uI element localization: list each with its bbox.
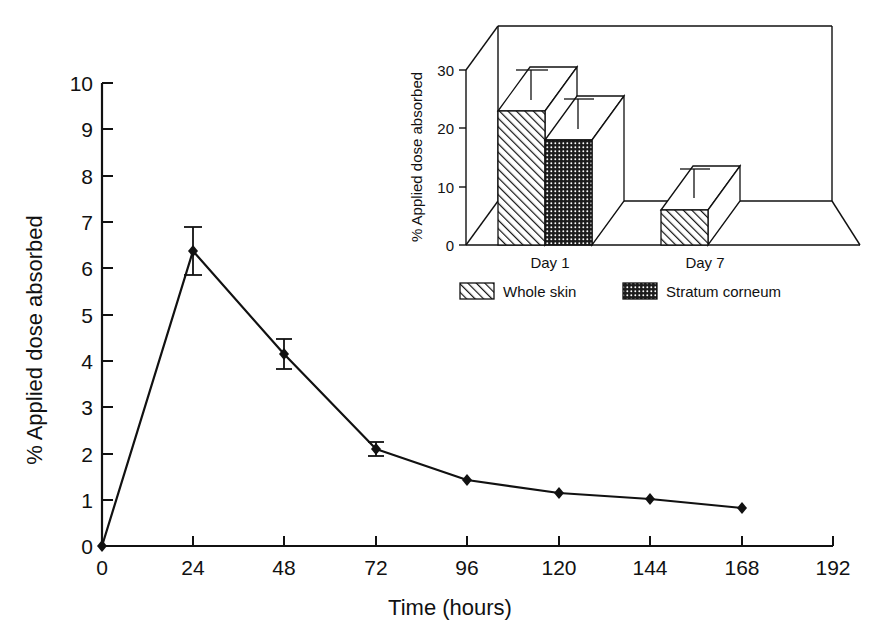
main-y-axis: 10 9 8 7 6 5 4 3 2 1 0 bbox=[70, 72, 113, 558]
inset-bar-chart: 30 20 10 0 bbox=[398, 2, 868, 312]
y-tick-label-6: 6 bbox=[81, 257, 93, 280]
y-tick-label-0: 0 bbox=[81, 535, 93, 558]
inset-legend: Whole skin Stratum corneum bbox=[460, 283, 781, 300]
inset-bar-day7-whole-skin bbox=[661, 166, 740, 245]
inset-y-tick-20: 20 bbox=[437, 120, 454, 137]
x-tick-label-96: 96 bbox=[455, 556, 478, 579]
inset-category-label-day-1: Day 1 bbox=[530, 254, 569, 271]
y-tick-label-10: 10 bbox=[70, 72, 93, 95]
data-point-168 bbox=[737, 502, 747, 514]
inset-y-tick-30: 30 bbox=[437, 62, 454, 79]
inset-y-axis-title: % Applied dose absorbed bbox=[408, 72, 425, 242]
x-tick-label-192: 192 bbox=[815, 556, 850, 579]
inset-y-ticks: 30 20 10 0 bbox=[437, 62, 466, 254]
y-tick-label-2: 2 bbox=[81, 443, 93, 466]
data-point-96 bbox=[462, 474, 472, 486]
data-point-144 bbox=[645, 493, 655, 505]
x-tick-label-0: 0 bbox=[96, 556, 108, 579]
x-tick-label-24: 24 bbox=[181, 556, 205, 579]
main-x-ticks bbox=[102, 536, 833, 546]
x-tick-label-144: 144 bbox=[632, 556, 667, 579]
y-tick-label-3: 3 bbox=[81, 396, 93, 419]
x-tick-label-72: 72 bbox=[364, 556, 387, 579]
legend-swatch-stratum-corneum bbox=[623, 283, 657, 299]
main-y-axis-title: % Applied dose absorbed bbox=[22, 215, 47, 465]
main-x-axis: 0 24 48 72 96 120 144 168 192 bbox=[96, 536, 850, 579]
main-y-ticks bbox=[102, 83, 113, 546]
main-x-axis-title: Time (hours) bbox=[388, 595, 512, 620]
y-tick-label-9: 9 bbox=[81, 118, 93, 141]
y-tick-label-7: 7 bbox=[81, 211, 93, 234]
x-tick-label-120: 120 bbox=[541, 556, 576, 579]
legend-label-stratum-corneum: Stratum corneum bbox=[666, 283, 781, 300]
inset-category-label-day-7: Day 7 bbox=[685, 254, 724, 271]
data-point-120 bbox=[554, 487, 564, 499]
y-tick-label-5: 5 bbox=[81, 304, 93, 327]
legend-label-whole-skin: Whole skin bbox=[503, 283, 576, 300]
x-tick-label-168: 168 bbox=[724, 556, 759, 579]
data-point-0 bbox=[97, 540, 107, 552]
x-tick-label-48: 48 bbox=[272, 556, 295, 579]
main-error-bars bbox=[184, 227, 384, 456]
y-tick-label-8: 8 bbox=[81, 165, 93, 188]
legend-swatch-whole-skin bbox=[460, 283, 494, 299]
inset-y-tick-10: 10 bbox=[437, 179, 454, 196]
y-tick-label-4: 4 bbox=[81, 350, 93, 373]
y-tick-label-1: 1 bbox=[81, 489, 93, 512]
figure-root: 10 9 8 7 6 5 4 3 2 1 0 bbox=[0, 0, 870, 637]
inset-chart-svg: 30 20 10 0 bbox=[398, 2, 868, 312]
inset-y-tick-0: 0 bbox=[446, 237, 454, 254]
